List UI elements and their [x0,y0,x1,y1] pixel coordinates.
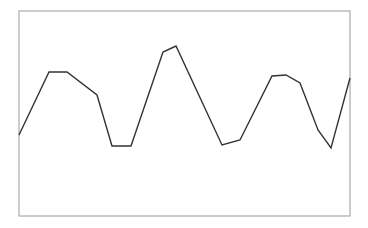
plot-area-frame [19,11,350,216]
chart-canvas [0,0,368,228]
line-chart [0,0,368,228]
